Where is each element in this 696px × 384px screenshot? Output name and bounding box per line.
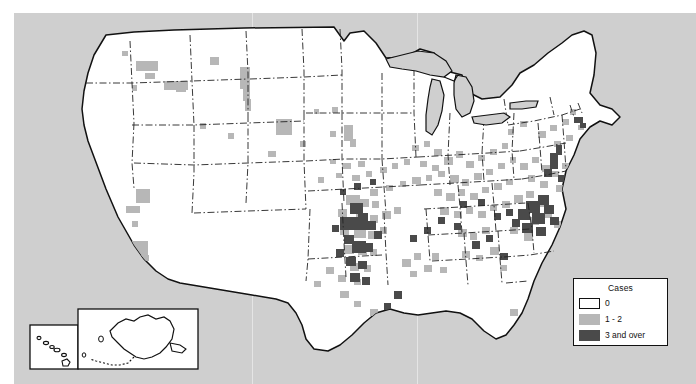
figure-page: Cases 0 1 - 2 3 and over [0, 0, 696, 384]
legend-label-three-over: 3 and over [605, 330, 645, 341]
legend-entry-1: 1 - 2 [579, 313, 662, 326]
legend-entry-2: 3 and over [579, 329, 662, 342]
legend-swatch-one-two [579, 314, 600, 325]
legend-label-zero: 0 [605, 298, 610, 309]
legend-swatch-three-over [579, 330, 600, 341]
legend-swatch-zero [579, 298, 600, 309]
legend-title: Cases [579, 283, 662, 293]
legend-entry-0: 0 [579, 297, 662, 310]
choropleth-map: Cases 0 1 - 2 3 and over [14, 13, 696, 384]
map-legend: Cases 0 1 - 2 3 and over [573, 278, 668, 346]
alaska-inset [78, 309, 198, 369]
hawaii-inset [30, 325, 78, 369]
legend-label-one-two: 1 - 2 [605, 314, 622, 325]
